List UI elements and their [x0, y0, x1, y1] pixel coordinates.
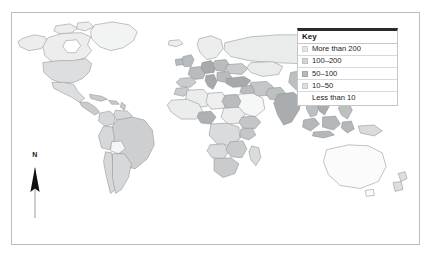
legend-label-50-100: 50–100: [312, 68, 337, 80]
legend-swatch-50-100: [302, 71, 308, 77]
region-ireland: [175, 59, 183, 66]
north-arrow-label: N: [18, 150, 52, 159]
legend-item-50-100: 50–100: [298, 68, 397, 80]
north-arrow: N: [18, 150, 52, 220]
legend-item-less-than-10: Less than 10: [298, 92, 397, 104]
legend-title: Key: [302, 31, 317, 43]
legend-swatch-10-50: [302, 83, 308, 89]
world-map-figure: N Key More than 200 100–200 50–100 10–50: [0, 0, 430, 265]
legend-swatch-more-than-200: [302, 46, 308, 52]
map-legend: Key More than 200 100–200 50–100 10–50 L…: [297, 28, 398, 106]
legend-swatch-less-than-10: [302, 95, 308, 101]
north-arrow-head: [30, 167, 39, 192]
legend-swatch-100-200: [302, 58, 308, 64]
legend-label-more-than-200: More than 200: [312, 43, 361, 55]
north-arrow-glyph: [18, 160, 52, 220]
legend-label-10-50: 10–50: [312, 80, 333, 92]
legend-item-more-than-200: More than 200: [298, 44, 397, 56]
legend-label-less-than-10: Less than 10: [312, 92, 356, 104]
region-tasmania: [365, 189, 374, 196]
legend-item-10-50: 10–50: [298, 80, 397, 92]
legend-title-row: Key: [298, 31, 397, 44]
legend-item-100-200: 100–200: [298, 56, 397, 68]
legend-label-100-200: 100–200: [312, 55, 342, 67]
region-new-zealand-south: [393, 182, 403, 192]
